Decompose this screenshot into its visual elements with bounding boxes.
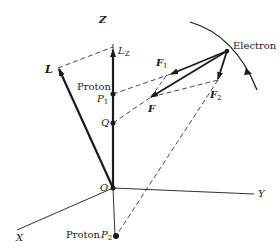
proton1-label: Proton [77,82,111,92]
f2-label: F2 [210,90,222,102]
f1-label: F1 [156,58,168,70]
p1-label: P1 [97,94,108,106]
p2-label: P2 [101,230,112,242]
p2-label-sub: 2 [108,234,112,242]
f1-vector [171,51,227,74]
electron-orbit [190,22,257,90]
z-axis-label: Z [99,15,106,25]
diagram-canvas [0,0,280,248]
f2-label-sub: 2 [217,94,221,102]
origin-dot [111,186,116,191]
origin-label: O [100,183,108,193]
x-axis-label: X [16,233,23,243]
y-axis-label: Y [258,189,265,199]
dashed-f1-to-f [151,76,166,97]
x-axis [17,188,113,230]
y-axis [113,188,254,194]
lz-label: LZ [118,46,130,58]
q-dot [111,121,116,126]
orbit-direction-arrow [244,68,252,75]
dashed-q-to-f [113,97,151,123]
p1-label-sub: 1 [104,98,108,106]
dashed-f2-to-p2 [116,80,218,236]
p1-dot [111,92,116,97]
f1-label-sub: 1 [163,62,167,70]
electron-label: Electron [233,41,276,51]
lz-label-sub: Z [125,50,130,58]
z-axis-negative [113,188,115,236]
dashed-l-to-lz [58,47,113,68]
p2-label-main: P [101,229,108,240]
l-vector-label: L [45,64,53,75]
p2-dot [113,233,119,239]
f-label: F [148,104,155,114]
proton2-label: Proton [66,230,100,240]
q-label: Q [101,118,109,128]
lz-label-main: L [118,45,125,56]
electron-dot [225,49,230,54]
p1-label-main: P [97,93,104,104]
